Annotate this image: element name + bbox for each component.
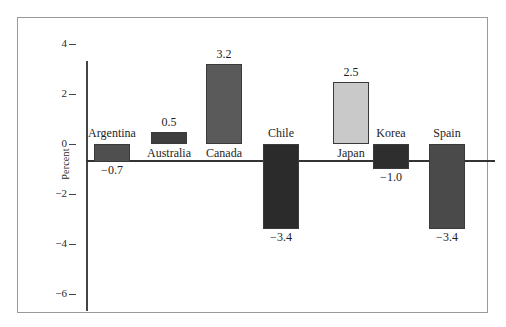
- bar-australia[interactable]: [151, 132, 187, 145]
- y-axis-tick-label-text: −2: [41, 188, 67, 199]
- bar-category-label-spain: Spain: [402, 127, 492, 140]
- y-axis-tick-label: −4: [37, 238, 67, 249]
- bar-category-label-canada: Canada: [179, 147, 269, 160]
- figure-frame: Percent 420−2−4−6 Argentina−0.7Australia…: [17, 17, 488, 313]
- chart-screenshot: Percent 420−2−4−6 Argentina−0.7Australia…: [0, 0, 506, 327]
- bar-value-label-argentina: −0.7: [82, 164, 142, 177]
- y-axis-tick-label-text: 2: [41, 88, 67, 99]
- bar-value-label-australia: 0.5: [139, 116, 199, 129]
- y-axis-tick: [69, 44, 76, 45]
- bar-value-label-japan: 2.5: [321, 66, 381, 79]
- y-axis-tick: [69, 244, 76, 245]
- y-axis-tick: [69, 194, 76, 195]
- bar-category-label-argentina: Argentina: [67, 127, 157, 140]
- y-axis-tick-label-text: −4: [41, 238, 67, 249]
- y-axis-tick-label-text: 0: [41, 138, 67, 149]
- y-axis-spine: [86, 61, 88, 311]
- y-axis-tick: [69, 94, 76, 95]
- y-axis-tick-label: 4: [37, 38, 67, 49]
- y-axis-tick-label-text: 4: [41, 38, 67, 49]
- y-axis-tick-label: 0: [37, 138, 67, 149]
- bar-value-label-chile: −3.4: [251, 231, 311, 244]
- y-axis-tick-label: 2: [37, 88, 67, 99]
- bar-value-label-korea: −1.0: [361, 171, 421, 184]
- y-axis-tick-label: −6: [37, 288, 67, 299]
- bar-chile[interactable]: [263, 144, 299, 229]
- y-axis-tick: [69, 144, 76, 145]
- bar-category-label-chile: Chile: [236, 127, 326, 140]
- bar-value-label-canada: 3.2: [194, 48, 254, 61]
- y-axis-tick-label-text: −6: [41, 288, 67, 299]
- y-axis-tick-label: −2: [37, 188, 67, 199]
- bar-spain[interactable]: [429, 144, 465, 229]
- bar-value-label-spain: −3.4: [417, 231, 477, 244]
- y-axis-tick: [69, 294, 76, 295]
- bar-korea[interactable]: [373, 144, 409, 169]
